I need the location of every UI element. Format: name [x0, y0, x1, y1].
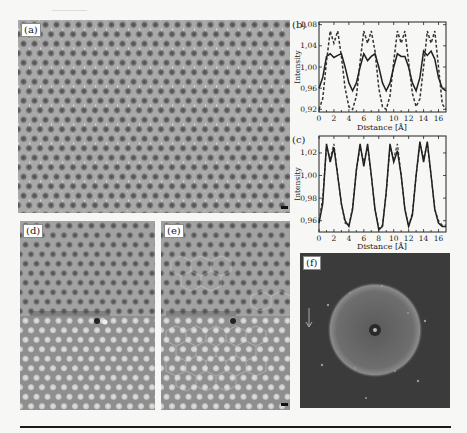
svg-text:0,92: 0,92: [300, 105, 317, 114]
plot-c-dashed-line: [319, 144, 446, 229]
panel-a-lattice-image: (a): [18, 20, 290, 213]
plot-b-ylabel: Intensity: [293, 49, 302, 83]
svg-text:8: 8: [376, 114, 381, 123]
top-rule: [52, 10, 87, 11]
bottom-rule: [20, 426, 451, 428]
plot-b-dashed-line: [319, 31, 446, 109]
svg-text:14: 14: [419, 114, 429, 123]
scale-bar-e: [281, 403, 288, 406]
plot-c-svg: 02468101214160,960,981,001,02 Intensity …: [290, 130, 467, 252]
plot-b-svg: 02468101214160,920,961,001,041,08 Intens…: [290, 15, 467, 140]
svg-text:2: 2: [332, 114, 337, 123]
svg-text:1,00: 1,00: [300, 63, 317, 72]
panel-d-label: (d): [23, 224, 43, 238]
svg-text:6: 6: [361, 114, 366, 123]
svg-text:0: 0: [317, 234, 322, 243]
svg-text:16: 16: [434, 234, 444, 243]
svg-text:12: 12: [404, 114, 414, 123]
panel-f-label: (f): [303, 256, 321, 270]
svg-text:0,98: 0,98: [300, 194, 317, 203]
svg-text:2: 2: [332, 234, 337, 243]
plot-c-intensity-profile: 02468101214160,960,981,001,02 Intensity …: [290, 130, 467, 252]
panel-a-label: (a): [21, 23, 41, 37]
svg-text:0: 0: [317, 114, 322, 123]
panel-e-model-overlay-image: (e): [161, 221, 290, 410]
plot-c-xlabel: Distance [Å]: [357, 242, 407, 251]
panel-e-label: (e): [164, 224, 184, 238]
svg-text:10: 10: [389, 114, 399, 123]
svg-text:4: 4: [346, 234, 351, 243]
plot-b-solid-line: [319, 51, 446, 91]
lattice-e-svg: [161, 221, 290, 410]
plot-b-intensity-profile: 02468101214160,920,961,001,041,08 Intens…: [290, 15, 467, 140]
panel-f-fft-pattern: (f): [300, 253, 450, 408]
panel-b-label: (b): [292, 19, 306, 30]
lattice-a-svg: [18, 20, 290, 213]
plot-c-solid-line: [319, 142, 446, 230]
svg-text:0,96: 0,96: [300, 216, 317, 225]
svg-text:4: 4: [346, 114, 351, 123]
svg-text:16: 16: [434, 114, 444, 123]
svg-text:1,02: 1,02: [300, 148, 317, 157]
arrow-icon: [306, 308, 312, 327]
scale-bar-a: [281, 206, 288, 209]
panel-c-label: (c): [292, 134, 305, 145]
svg-text:1,00: 1,00: [300, 171, 317, 180]
svg-text:0,96: 0,96: [300, 84, 317, 93]
lattice-d-svg: [20, 221, 155, 410]
svg-text:1,04: 1,04: [300, 41, 317, 50]
plot-c-ylabel: Intensity: [293, 166, 302, 200]
fft-svg: [300, 253, 450, 408]
panel-d-defect-image: (d): [20, 221, 155, 410]
svg-text:14: 14: [419, 234, 429, 243]
